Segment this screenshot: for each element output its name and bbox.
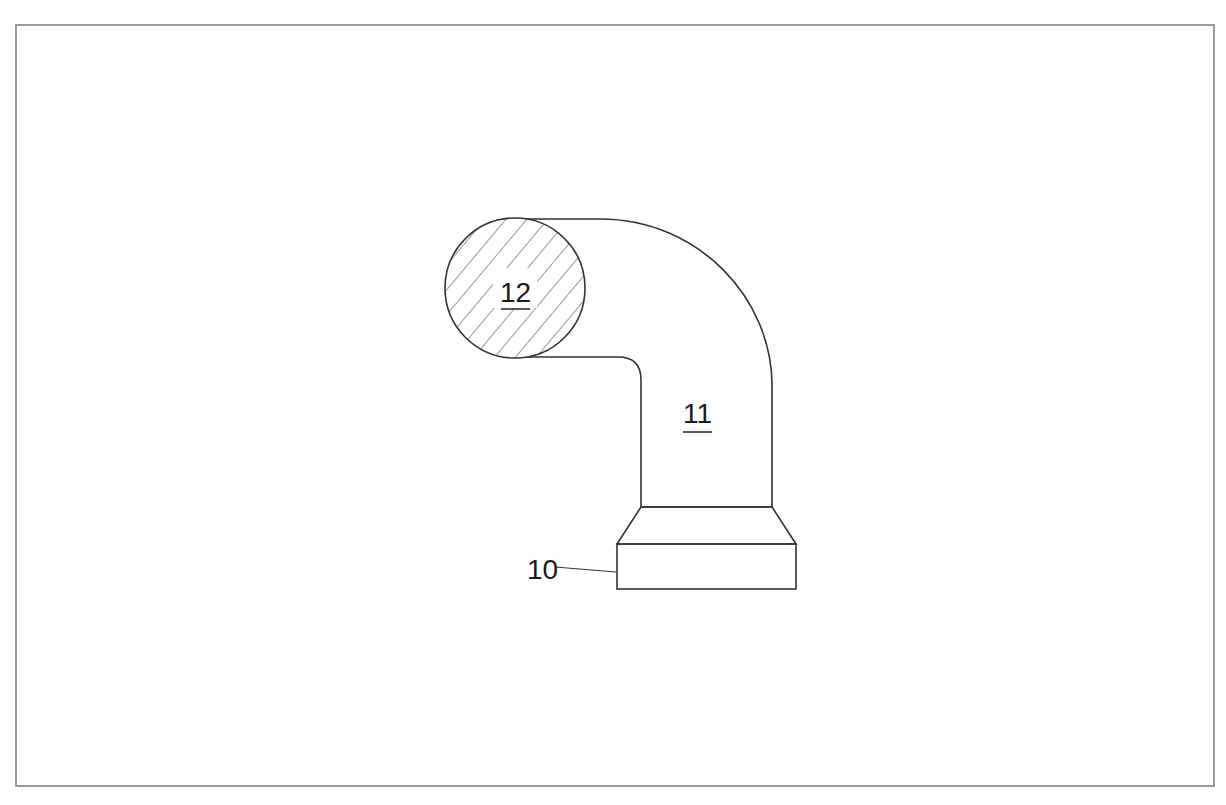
leader-line-10 [555,567,616,572]
base-block [617,507,796,589]
label-12: 12 [500,277,531,308]
label-11: 11 [683,398,712,429]
label-10: 10 [527,554,558,585]
patent-figure: 10 11 12 [0,0,1226,805]
